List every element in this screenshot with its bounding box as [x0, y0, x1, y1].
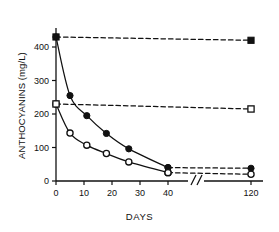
data-point-open-circle — [84, 142, 90, 148]
y-tick-label: 0 — [44, 176, 49, 186]
y-axis-label: ANTHOCYANINS (mg/L) — [16, 36, 27, 176]
x-tick-label: 20 — [107, 188, 117, 198]
data-point-open-circle — [248, 171, 254, 177]
data-point-open-square — [248, 106, 254, 112]
y-tick-label: 200 — [34, 109, 49, 119]
data-point-filled-circle — [248, 165, 254, 171]
series-line — [56, 104, 251, 109]
anthocyanins-chart: 0100200300400010203040120 ANTHOCYANINS (… — [0, 0, 279, 232]
data-point-filled-circle — [103, 130, 109, 136]
y-tick-label: 100 — [34, 143, 49, 153]
series-line — [168, 168, 251, 169]
series-open-square-dashed — [53, 101, 254, 112]
x-tick-label: 30 — [135, 188, 145, 198]
series-line — [168, 173, 251, 175]
series-filled-circle-solid — [53, 34, 171, 171]
series-filled-square-dashed — [53, 34, 254, 44]
data-point-filled-circle — [84, 113, 90, 119]
x-tick-label: 40 — [163, 188, 173, 198]
series-line — [56, 37, 168, 168]
x-axis-label: DAYS — [0, 211, 279, 222]
y-tick-label: 400 — [34, 42, 49, 52]
data-point-filled-circle — [67, 92, 73, 98]
data-point-open-circle — [165, 170, 171, 176]
series-open-circle-dashed-tail — [165, 170, 254, 178]
series-filled-circle-dashed-tail — [165, 165, 254, 172]
data-point-open-circle — [126, 159, 132, 165]
y-tick-label: 300 — [34, 76, 49, 86]
data-point-filled-circle — [126, 146, 132, 152]
data-point-filled-square — [248, 37, 254, 43]
series-line — [56, 37, 251, 40]
data-point-open-square — [53, 101, 59, 107]
data-point-filled-square — [53, 34, 59, 40]
data-point-open-circle — [103, 150, 109, 156]
plot-area: 0100200300400010203040120 — [0, 0, 279, 232]
data-point-open-circle — [67, 130, 73, 136]
x-tick-label: 120 — [243, 188, 258, 198]
x-tick-label: 10 — [79, 188, 89, 198]
x-tick-label: 0 — [53, 188, 58, 198]
